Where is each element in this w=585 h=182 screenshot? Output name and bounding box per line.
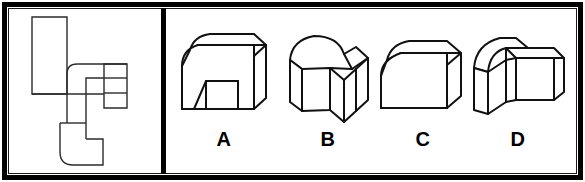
flat-pattern-drawing [8, 8, 161, 174]
option-a-solid [172, 14, 276, 132]
option-d[interactable]: D [466, 14, 570, 172]
option-b-solid [276, 14, 380, 132]
option-c-label: C [371, 128, 475, 150]
option-a-label: A [172, 128, 276, 150]
option-d-solid [466, 14, 570, 132]
answer-options-panel: A B [166, 8, 577, 174]
option-d-label: D [466, 128, 570, 150]
option-a[interactable]: A [172, 14, 276, 172]
flat-pattern-panel [8, 8, 161, 174]
option-b[interactable]: B [276, 14, 380, 172]
option-c-solid [371, 14, 475, 132]
option-b-label: B [276, 128, 380, 150]
spatial-reasoning-figure: A B [0, 0, 585, 182]
option-c[interactable]: C [371, 14, 475, 172]
